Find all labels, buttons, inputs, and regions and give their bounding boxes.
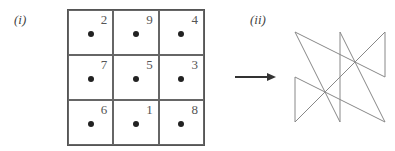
arrow-right-icon xyxy=(235,73,276,81)
magic-path xyxy=(295,32,385,122)
diagram-overlay xyxy=(0,0,395,151)
